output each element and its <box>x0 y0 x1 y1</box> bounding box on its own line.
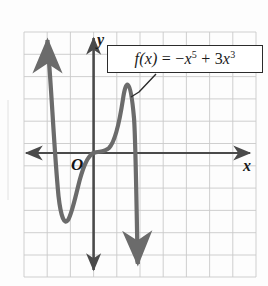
y-axis-label: y <box>97 31 104 49</box>
equation-equals: = <box>162 50 171 67</box>
equation-term1-base: x <box>185 50 192 67</box>
origin-label: O <box>71 155 83 175</box>
equation-callout-box: f(x) = −x5 + 3x3 <box>107 45 263 73</box>
graph-canvas <box>0 0 268 286</box>
equation-term1-sign: − <box>175 50 184 67</box>
equation-term2-coefficient: 3 <box>215 50 223 67</box>
callout-leader-line <box>131 74 156 97</box>
equation-term2-exponent: 3 <box>230 49 235 60</box>
x-axis-label: x <box>243 157 251 175</box>
function-graph-figure: f(x) = −x5 + 3x3 y x O <box>0 0 268 286</box>
equation-callout-text: f(x) = −x5 + 3x3 <box>135 50 236 68</box>
equation-fx: f(x) <box>135 50 158 67</box>
